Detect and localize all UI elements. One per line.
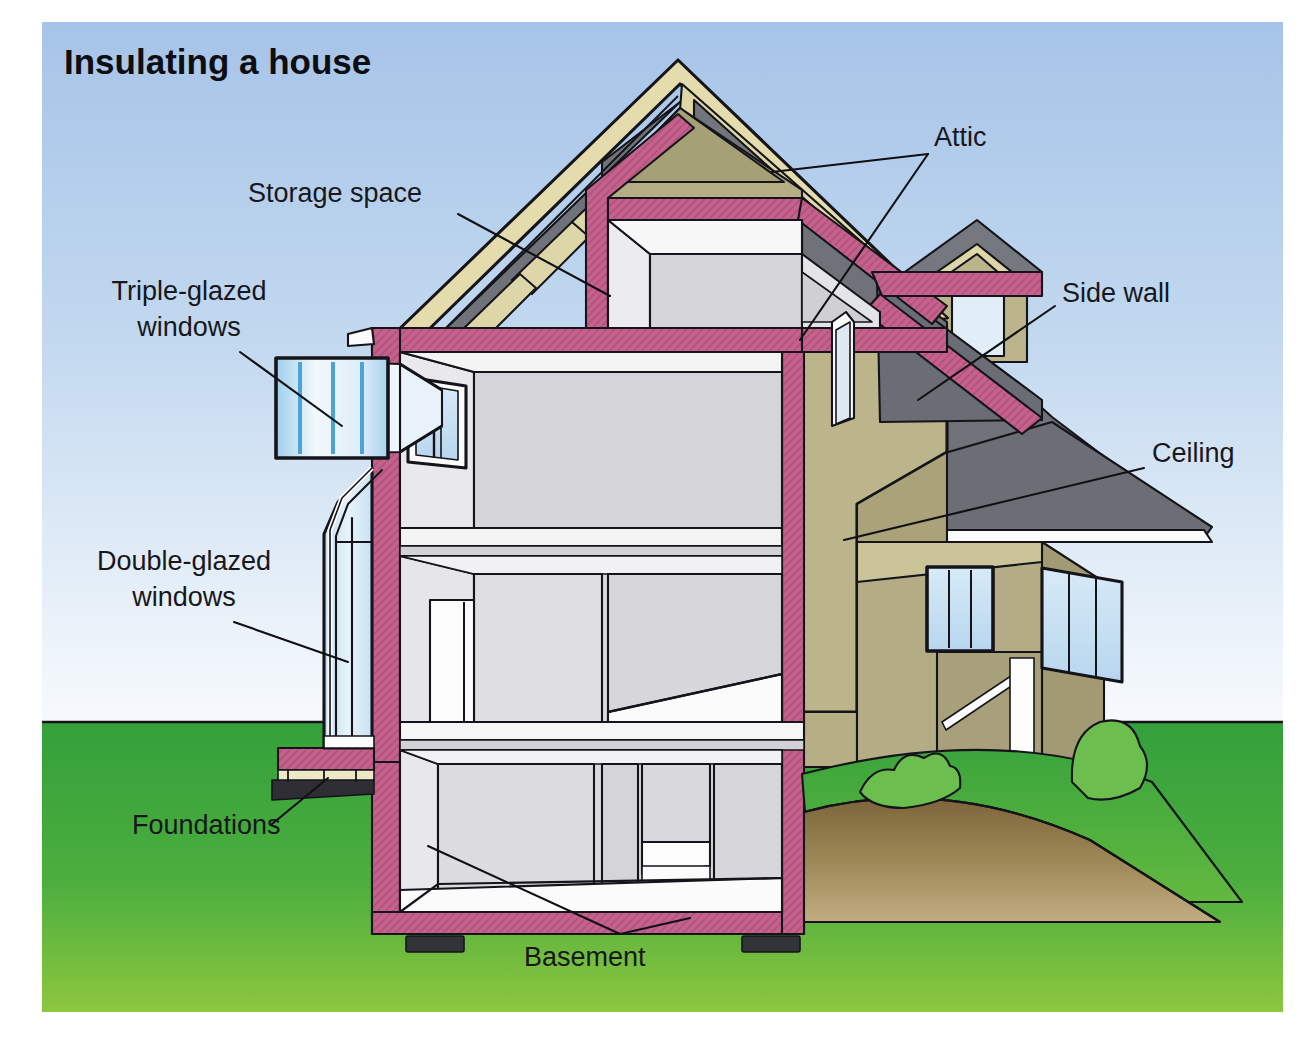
attic-storage-void xyxy=(608,220,802,328)
basement-room xyxy=(400,750,782,912)
conservatory-footing xyxy=(272,770,374,800)
middle-floor-interior xyxy=(400,556,782,722)
house-cutaway-svg: Insulating a house Attic Storage space S… xyxy=(42,22,1283,1012)
label-storage-space: Storage space xyxy=(248,178,422,208)
triple-glazed-window-detail-inset xyxy=(276,358,442,458)
page-title: Insulating a house xyxy=(64,42,371,81)
upper-floor-interior xyxy=(400,352,782,528)
label-storage-space-text: Storage space xyxy=(248,178,422,208)
label-side-wall-text: Side wall xyxy=(1062,278,1170,308)
window-side-wall-right xyxy=(1042,568,1122,682)
label-basement-text: Basement xyxy=(524,942,646,972)
label-double-glazed-line2: windows xyxy=(131,582,236,612)
floor-slab-upper xyxy=(400,528,782,556)
interior-doorway-middle xyxy=(430,600,474,722)
label-title: Insulating a house xyxy=(64,42,371,81)
label-attic: Attic xyxy=(934,122,987,152)
label-basement: Basement xyxy=(524,942,646,972)
illustration-stage: Insulating a house Attic Storage space S… xyxy=(0,0,1316,1053)
insulating-a-house-figure: Insulating a house Attic Storage space S… xyxy=(42,22,1283,1012)
label-side-wall: Side wall xyxy=(1062,278,1170,308)
floor-slab-lower xyxy=(400,722,804,750)
label-triple-glazed-line2: windows xyxy=(136,312,241,342)
label-foundations-text: Foundations xyxy=(132,810,281,840)
label-attic-text: Attic xyxy=(934,122,987,152)
label-triple-glazed-line1: Triple-glazed xyxy=(111,276,266,306)
window-side-wall-upper xyxy=(927,567,993,651)
label-double-glazed-line1: Double-glazed xyxy=(97,546,271,576)
label-foundations: Foundations xyxy=(132,810,281,840)
label-ceiling-text: Ceiling xyxy=(1152,438,1235,468)
label-ceiling: Ceiling xyxy=(1152,438,1235,468)
